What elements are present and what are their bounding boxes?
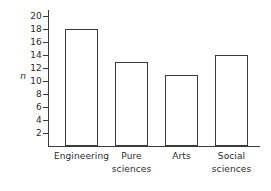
bar-chart: n 2018161412108642 EngineeringPurescienc… [0, 0, 270, 191]
bar [215, 55, 248, 146]
x-category-label: Socialsciences [192, 150, 271, 176]
x-category-label-line1: Arts [172, 151, 190, 161]
bar [165, 75, 198, 146]
x-axis-category-labels: EngineeringPuresciencesArtsSocialscience… [0, 150, 270, 191]
bar [115, 62, 148, 146]
x-axis-line [48, 146, 260, 147]
plot-area [48, 10, 260, 146]
x-category-label-line1: Social [218, 151, 245, 161]
x-category-label-line2: sciences [92, 163, 172, 176]
bar [65, 29, 98, 146]
x-category-label-line1: Pure [121, 151, 141, 161]
x-category-label-line2: sciences [192, 163, 271, 176]
